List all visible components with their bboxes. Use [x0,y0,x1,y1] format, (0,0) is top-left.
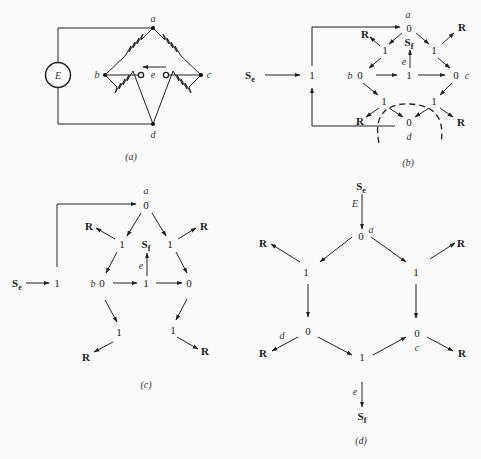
panel-d-bond-graph: Se E 0 a 1 1 R R 0 d 0 c R R 1 e Sf (d) [259,180,467,447]
node-a-label: a [369,224,374,235]
bond-1dr-0d [415,108,429,117]
junction-1-lower-left: 1 [381,95,387,107]
effort-label: e [402,56,407,67]
r-element: R [201,345,210,357]
junction-1-left: 1 [119,238,125,250]
bond-0c-1dr [440,83,452,95]
wire-bottom [58,87,153,124]
r-element: R [458,21,467,33]
junction-0-c: 0 [414,327,420,339]
se-source: Se [356,180,366,195]
terminal-left-icon [138,72,143,77]
source-effort-label: E [351,198,358,209]
junction-1-right: 1 [413,266,419,278]
bond-0r-1dr [176,299,187,320]
panel-a-circuit: E e a b c d (a) [46,13,212,163]
junction-0-d: 0 [406,116,412,128]
junction-1-source: 1 [54,277,60,289]
bond-0b-1dl [363,83,378,95]
junction-0-a: 0 [143,199,149,211]
bond-1l-r [370,37,380,46]
bond-0a-1l [127,213,141,236]
caption-d: (d) [355,435,367,447]
bond-0d-1b [318,337,352,355]
resistor-cd-icon [153,71,201,124]
bond-0a-1l [320,237,352,262]
bond-1r-0 [176,252,187,273]
node-b-label: b [348,70,353,81]
output-label: e [151,69,156,80]
junction-0-d: 0 [305,325,311,337]
resistor-ab-icon [105,28,153,75]
bond-1r-r [178,228,196,239]
junction-0-a: 0 [406,22,412,34]
junction-1-lower-right: 1 [431,95,437,107]
junction-1-lower-left: 1 [116,326,122,338]
junction-1-source: 1 [309,69,315,81]
bond-1dl-r [366,108,379,117]
node-d-label: d [151,129,157,140]
bond-1l-r [271,244,300,262]
node-c-label: c [465,70,470,81]
r-element: R [457,237,466,249]
node-c-label: c [415,342,420,353]
junction-1-center: 1 [406,69,412,81]
effort-label: e [139,260,144,271]
node-b-label: b [95,69,100,80]
node-a-label: a [151,13,156,24]
node-c-label: c [207,69,212,80]
source-label: E [54,70,61,81]
r-element: R [458,347,467,359]
junction-0-b: 0 [99,277,105,289]
panel-b-bond-graph: Se 1 a 0 Sf 1 1 R R b 0 1 0 c e 1 1 R R [245,9,470,169]
r-element: R [82,351,91,363]
caption-c: (c) [140,379,152,391]
sf-source: Sf [358,410,367,425]
bond-1dr-r [440,108,453,117]
junction-0-b: 0 [357,69,363,81]
r-element: R [361,28,370,40]
bond-1r-0c [438,58,450,68]
junction-0-a: 0 [358,230,364,242]
terminal-right-icon [163,72,168,77]
resistor-bd-icon [105,71,153,124]
node-c-dot [199,73,203,77]
bond-0d-1 [312,88,395,126]
bond-0b-1dl [105,300,117,322]
wire-top [58,28,153,63]
r-element: R [259,237,268,249]
bond-graph-figure: E e a b c d (a) Se 1 a 0 Sf 1 [0,0,481,459]
bond-0d-r [272,337,298,351]
node-a-label: a [406,9,411,20]
junction-1-right: 1 [431,44,437,56]
r-element: R [457,116,466,128]
bond-1dl-r [94,342,113,352]
bond-1l-r [96,228,115,239]
node-b-label: b [91,278,96,289]
r-element: R [200,220,209,232]
node-a-label: a [144,185,149,196]
node-a-dot [151,26,155,30]
se-source: Se [12,277,22,292]
bond-1dr-r [177,337,198,349]
r-element: R [259,347,268,359]
junction-1-center: 1 [143,277,149,289]
bond-1b-0c [373,337,406,355]
resistor-ac-icon [153,28,201,75]
panel-c-bond-graph: a 0 Se 1 1 1 R R Sf b 0 1 0 e 1 1 R R (c… [12,185,210,391]
bond-0a-1r [152,213,166,236]
bond-0a-1l [389,33,402,44]
junction-0-c: 0 [453,69,459,81]
bond-1r-r [430,243,455,259]
bond-1dl-0d [389,108,403,117]
junction-1-lower-right: 1 [170,324,176,336]
bond-1r-r [442,33,454,44]
junction-1-bottom: 1 [359,351,365,363]
node-b-dot [103,73,107,77]
sf-source: Sf [142,238,151,253]
bond-1-0a [57,204,136,267]
junction-1-right: 1 [167,238,173,250]
node-d-label: d [407,131,413,142]
bond-1l-0b [106,252,117,273]
bond-0c-r [427,337,453,351]
